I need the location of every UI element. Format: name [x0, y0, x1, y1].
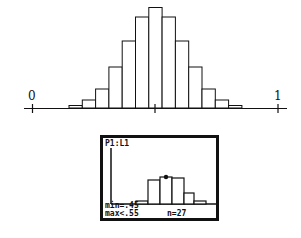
axis-label-zero: 0 [28, 89, 36, 103]
calculator-screen: P1:L1 min=.45 max<.55 n=27 [100, 135, 219, 221]
trace-max: max<.55 [105, 210, 139, 218]
axis-label-one: 1 [274, 89, 282, 103]
histogram-svg [0, 0, 301, 120]
trace-n: n=27 [167, 210, 186, 218]
